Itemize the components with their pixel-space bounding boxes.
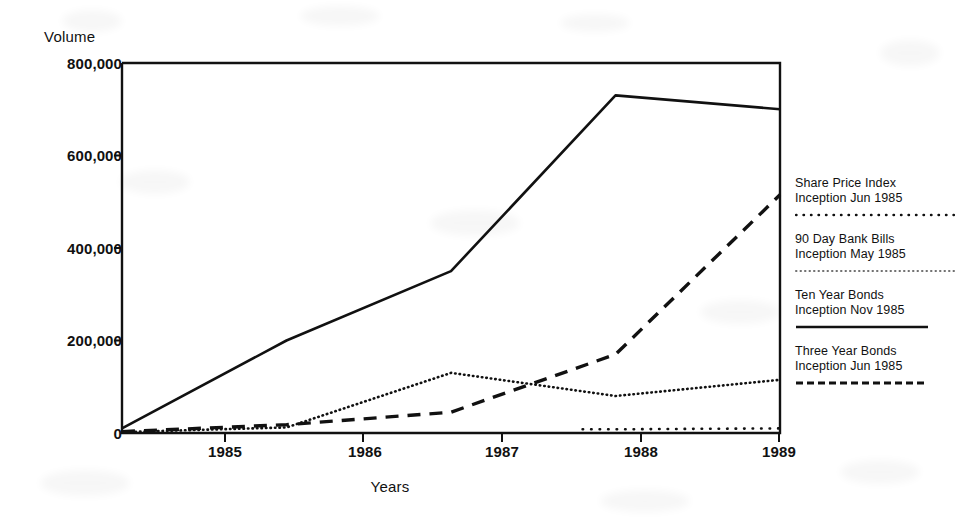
legend-line-sample-fine-dotted [795,211,960,225]
series-line-ten-year-bonds [122,95,780,428]
series-line-90-day-bank-bills [122,373,780,432]
legend-label: Ten Year Bonds [795,288,960,303]
x-axis-ticks [225,433,779,442]
legend-sublabel: Inception Jun 1985 [795,191,960,206]
legend-line-sample-fine-dotted [795,267,960,281]
series-line-share-price-index [583,428,780,429]
legend-entry-90-day-bank-bills[interactable]: 90 Day Bank Bills Inception May 1985 [795,232,960,281]
legend-entry-three-year-bonds[interactable]: Three Year Bonds Inception Jun 1985 [795,344,960,393]
legend-sublabel: Inception Jun 1985 [795,359,960,374]
legend-label: 90 Day Bank Bills [795,232,960,247]
legend-label: Share Price Index [795,176,960,191]
chart-legend: Share Price Index Inception Jun 1985 90 … [795,176,960,400]
legend-line-sample-solid [795,323,960,337]
legend-entry-share-price-index[interactable]: Share Price Index Inception Jun 1985 [795,176,960,225]
series-line-three-year-bonds [122,195,780,432]
chart-figure: Volume 800,000 600,000 400,000 200,000 0… [0,0,965,528]
legend-sublabel: Inception May 1985 [795,247,960,262]
axis-frame [122,63,780,433]
legend-label: Three Year Bonds [795,344,960,359]
data-series-layer [122,95,780,432]
legend-line-sample-dashed [795,379,960,393]
legend-sublabel: Inception Nov 1985 [795,303,960,318]
legend-entry-ten-year-bonds[interactable]: Ten Year Bonds Inception Nov 1985 [795,288,960,337]
